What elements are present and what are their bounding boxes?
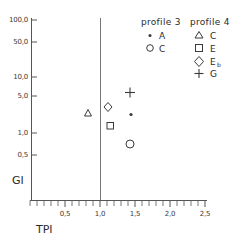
legend-open-square-marker bbox=[196, 45, 203, 52]
y-tick-label-0_5: 0,5 bbox=[17, 151, 28, 159]
legend-open-circle-marker bbox=[147, 45, 154, 52]
legend-label-eb: E bbox=[210, 57, 216, 67]
legend-label-g: G bbox=[210, 69, 217, 79]
x-tick-label-1_0: 1,0 bbox=[95, 210, 106, 218]
legend-profile-4-title: profile 4 bbox=[190, 17, 230, 27]
legend-item-a: A bbox=[149, 31, 167, 41]
y-tick-labels: 100,0 50,0 10,0 5,0 1,0 0,5 bbox=[9, 16, 28, 159]
legend-profile-3-title: profile 3 bbox=[141, 17, 181, 27]
x-tick-labels: 0,5 1,0 1,5 2,0 2,5 bbox=[60, 210, 211, 218]
y-tick-label-10: 10,0 bbox=[13, 73, 28, 81]
y-tick-label-100: 100,0 bbox=[9, 16, 28, 24]
legend-label-c-profile4: C bbox=[210, 31, 216, 41]
legend-item-c-profile3: C bbox=[147, 44, 166, 54]
x-tick-label-1_5: 1,5 bbox=[130, 210, 141, 218]
x-tick-label-2_0: 2,0 bbox=[165, 210, 176, 218]
legend-item-eb: E b bbox=[195, 57, 222, 69]
legend-profile-3: profile 3 A C bbox=[141, 17, 181, 54]
legend-profile-4: profile 4 C E E b G bbox=[190, 17, 230, 79]
legend-label-e: E bbox=[210, 44, 216, 54]
y-axis bbox=[32, 18, 38, 200]
data-point-filled-dot-marker bbox=[129, 113, 132, 116]
legend-item-e: E bbox=[196, 44, 217, 54]
data-point-plus-marker bbox=[125, 88, 135, 98]
y-axis-title: GI bbox=[12, 174, 24, 187]
data-points bbox=[85, 88, 136, 149]
legend-item-c-profile4: C bbox=[195, 31, 216, 41]
legend-plus-marker bbox=[195, 69, 204, 78]
data-point-open-square-marker bbox=[107, 123, 114, 130]
data-point-open-diamond-marker bbox=[104, 103, 112, 112]
x-tick-label-2_5: 2,5 bbox=[200, 210, 211, 218]
legend-open-triangle-marker bbox=[195, 32, 203, 39]
legend-item-g: G bbox=[195, 69, 218, 79]
legend-label-c-profile3: C bbox=[159, 44, 165, 54]
data-point-open-circle-marker bbox=[126, 140, 134, 148]
data-point-open-triangle-marker bbox=[85, 110, 92, 117]
plot-canvas: 100,0 50,0 10,0 5,0 1,0 0,5 bbox=[0, 0, 240, 238]
legend-open-diamond-marker bbox=[195, 57, 204, 67]
x-axis-title: TPI bbox=[35, 223, 53, 236]
x-axis bbox=[30, 201, 207, 208]
scatter-plot-figure: 100,0 50,0 10,0 5,0 1,0 0,5 bbox=[0, 0, 240, 238]
y-tick-label-1: 1,0 bbox=[17, 129, 28, 137]
legend-label-eb-subscript: b bbox=[217, 61, 221, 68]
y-tick-label-50: 50,0 bbox=[13, 38, 28, 46]
y-tick-label-5: 5,0 bbox=[17, 92, 28, 100]
legend-filled-dot-marker bbox=[149, 34, 152, 37]
x-tick-label-0_5: 0,5 bbox=[60, 210, 71, 218]
legend-label-a: A bbox=[159, 31, 166, 41]
